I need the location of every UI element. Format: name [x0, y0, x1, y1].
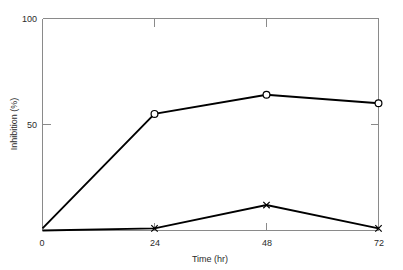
data-series-1 — [43, 91, 382, 228]
y-axis-title: Inhibition (%) — [9, 98, 19, 151]
x-tick-label-48: 48 — [262, 238, 272, 248]
y-tick-label-50: 50 — [27, 120, 37, 130]
marker-circle-48hr — [263, 91, 270, 98]
series-line-1 — [43, 95, 379, 229]
x-tick-label-72: 72 — [374, 238, 384, 248]
marker-circle-24hr — [151, 111, 158, 118]
chart-container: 100 50 Inhibition (%) 0 24 48 72 Time (h… — [0, 0, 403, 270]
marker-circle-72hr — [375, 100, 382, 107]
data-series-2 — [43, 202, 382, 232]
x-axis-ticks — [155, 19, 267, 231]
x-tick-label-24: 24 — [150, 238, 160, 248]
line-chart: 100 50 Inhibition (%) 0 24 48 72 Time (h… — [0, 0, 403, 270]
x-tick-label-0: 0 — [39, 238, 44, 248]
plot-frame — [43, 19, 379, 231]
x-axis-title: Time (hr) — [192, 254, 228, 264]
y-tick-label-100: 100 — [22, 14, 37, 24]
series-line-2 — [43, 205, 379, 230]
series-layer — [43, 91, 382, 231]
